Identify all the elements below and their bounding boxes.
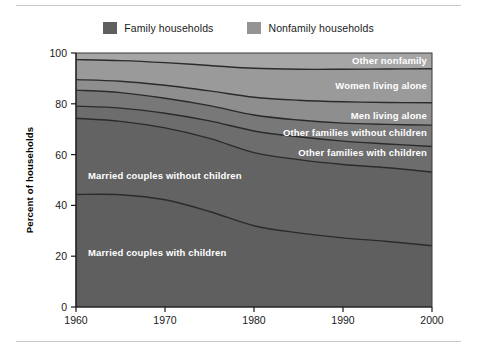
x-tick-label-1970: 1970: [153, 314, 177, 326]
y-tick-label-40: 40: [55, 199, 67, 211]
band-label-other-families-without-children: Other families without children: [283, 127, 427, 138]
y-tick-label-80: 80: [55, 98, 67, 110]
band-label-women-living-alone: Women living alone: [335, 80, 427, 91]
x-tick-label-1960: 1960: [64, 314, 88, 326]
x-tick-label-1980: 1980: [242, 314, 266, 326]
band-label-other-families-with-children: Other families with children: [298, 147, 427, 158]
band-label-other-nonfamily: Other nonfamily: [352, 55, 428, 66]
figure-root: Family households Nonfamily households 0…: [0, 0, 477, 358]
y-axis-title-group: Percent of households: [24, 127, 35, 234]
x-tick-label-1990: 1990: [331, 314, 355, 326]
x-tick-label-2000: 2000: [420, 314, 444, 326]
y-tick-label-0: 0: [61, 301, 67, 313]
chart-svg: 02040608010019601970198019902000 Other n…: [0, 0, 477, 358]
y-tick-label-20: 20: [55, 250, 67, 262]
y-tick-label-100: 100: [49, 47, 67, 59]
y-tick-label-60: 60: [55, 149, 67, 161]
band-label-married-couples-without-children: Married couples without children: [88, 170, 242, 181]
stacked-area-chart: 02040608010019601970198019902000 Other n…: [0, 0, 477, 358]
band-label-men-living-alone: Men living alone: [351, 110, 427, 121]
y-axis-title: Percent of households: [24, 127, 35, 234]
band-label-married-couples-with-children: Married couples with children: [88, 247, 226, 258]
